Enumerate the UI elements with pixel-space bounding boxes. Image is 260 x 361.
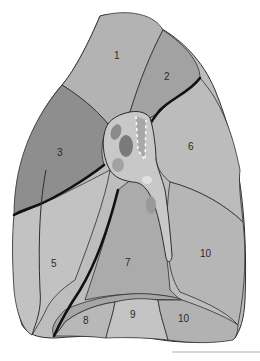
- hilum-vessel-3: [112, 158, 124, 172]
- label-segment-6: 6: [188, 141, 194, 152]
- hilum-vessel-2: [119, 135, 133, 157]
- scale-bar: [172, 351, 260, 353]
- label-segment-9: 9: [130, 309, 136, 320]
- hilum-vessel-4: [146, 196, 156, 214]
- lung-segment-diagram: 1 2 3 5 6 7 8 9 10 10: [0, 0, 260, 361]
- label-segment-1: 1: [114, 50, 120, 61]
- label-segment-10-upper: 10: [200, 248, 212, 259]
- label-segment-8: 8: [83, 315, 89, 326]
- label-segment-3: 3: [57, 147, 63, 158]
- label-segment-10-lower: 10: [178, 313, 190, 324]
- hilum-node: [142, 176, 152, 184]
- label-segment-5: 5: [51, 258, 57, 269]
- label-segment-7: 7: [125, 257, 131, 268]
- label-segment-2: 2: [164, 71, 170, 82]
